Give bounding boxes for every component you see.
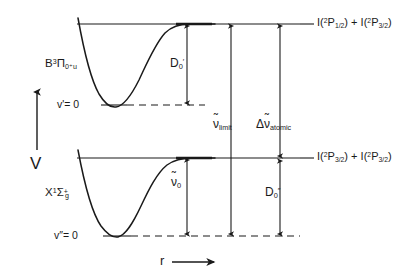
delta-nu-tilde-group: ˜ν <box>264 118 270 130</box>
potential-energy-diagram: B3Π0⁺u X1Σ+g v'= 0 v″= 0 I(2P1/2) + I(2P… <box>0 0 409 277</box>
d0-doubleprime-symbol: D <box>265 185 274 199</box>
nu-limit-tilde-group: ˜ν <box>213 118 219 130</box>
upper-limit-atom1-term: P <box>328 16 335 28</box>
nu-zero-sub: 0 <box>177 181 181 190</box>
vib-label-lower: v″= 0 <box>54 230 78 241</box>
nu-zero-tilde: ˜ <box>172 171 176 181</box>
d0-prime-symbol: D <box>170 56 179 70</box>
nu-limit-tilde: ˜ <box>214 113 218 123</box>
delta-symbol: Δ <box>256 117 264 131</box>
energy-label-nu-zero: ˜ν 0 <box>171 176 181 190</box>
axis-label-v: V <box>30 155 41 172</box>
axis-label-r: r <box>160 254 164 267</box>
nu-zero-tilde-group: ˜ν <box>171 176 177 188</box>
vib-lower-eq: = 0 <box>63 229 78 241</box>
lower-potential-curve <box>78 150 215 237</box>
upper-limit-atom1-j: 1/2 <box>335 22 344 29</box>
upper-limit-atom2-j: 3/2 <box>378 22 387 29</box>
state-label-upper: B3Π0⁺u <box>45 58 77 71</box>
state-label-lower: X1Σ+g <box>45 187 69 200</box>
lower-limit-plus: + <box>351 150 357 162</box>
d0-prime-mark: ′ <box>183 57 184 66</box>
upper-limit-plus: + <box>351 16 357 28</box>
energy-label-nu-limit: ˜ν limit <box>213 118 232 131</box>
upper-potential-curve <box>78 18 215 107</box>
vib-upper-eq: = 0 <box>64 98 79 110</box>
lower-limit-atom2-j: 3/2 <box>378 156 387 163</box>
state-upper-greek: Π <box>57 57 65 69</box>
nu-limit-subword: limit <box>219 123 232 132</box>
d0-doubleprime-mark: ″ <box>278 186 281 195</box>
delta-nu-subword: atomic <box>270 123 291 132</box>
vib-label-upper: v'= 0 <box>57 99 79 110</box>
energy-label-d0-doubleprime: D0″ <box>265 186 280 200</box>
delta-nu-tilde: ˜ <box>265 113 269 123</box>
dissociation-limit-upper: I(2P1/2) + I(2P3/2) <box>317 17 392 30</box>
state-upper-main: B <box>45 57 53 69</box>
state-upper-sub: 0⁺u <box>65 63 77 71</box>
energy-label-d0-prime: D0′ <box>170 57 184 71</box>
energy-label-delta-nu-atomic: Δ ˜ν atomic <box>256 118 291 131</box>
state-lower-greek: Σ <box>57 186 64 198</box>
lower-limit-atom1-j: 3/2 <box>335 156 344 163</box>
state-lower-main: X <box>45 186 53 198</box>
dissociation-limit-lower: I(2P3/2) + I(2P3/2) <box>317 151 392 164</box>
state-lower-sub: g <box>65 192 69 200</box>
lower-limit-atom1-term: P <box>328 150 335 162</box>
